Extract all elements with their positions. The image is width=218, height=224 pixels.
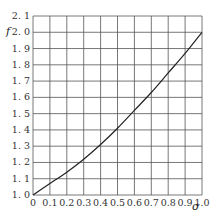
y-tick-label: 1. 2 bbox=[12, 156, 30, 167]
x-tick-label: 0.7 bbox=[144, 197, 159, 208]
y-tick-label: 1. 7 bbox=[12, 75, 30, 86]
y-tick-label: 2. 0 bbox=[12, 26, 30, 37]
y-tick-label: 1. 0 bbox=[12, 189, 30, 200]
y-tick-label: 1. 8 bbox=[12, 59, 30, 70]
y-tick-label: 1. 4 bbox=[12, 124, 30, 135]
x-tick-label: 0.4 bbox=[93, 197, 108, 208]
grid bbox=[33, 16, 202, 195]
y-axis-ticks: 1. 01. 11. 21. 31. 41. 51. 61. 71. 81. 9… bbox=[12, 10, 30, 200]
y-tick-label: 1. 6 bbox=[12, 91, 30, 102]
x-tick-label: 0.1 bbox=[42, 197, 57, 208]
y-tick-label: 1. 9 bbox=[12, 43, 30, 54]
chart: 1. 01. 11. 21. 31. 41. 51. 61. 71. 81. 9… bbox=[0, 0, 218, 224]
x-axis-label: σ bbox=[192, 200, 200, 213]
y-tick-label: 2. 1 bbox=[12, 10, 30, 21]
y-tick-label: 1. 1 bbox=[12, 173, 30, 184]
y-tick-label: 1. 3 bbox=[12, 140, 30, 151]
x-tick-label: 0 bbox=[30, 197, 36, 208]
x-tick-label: 0.5 bbox=[110, 197, 125, 208]
x-tick-label: 0.6 bbox=[127, 197, 142, 208]
x-tick-label: 0.2 bbox=[59, 197, 74, 208]
x-axis-ticks: 00.10.20.30.40.50.60.70.80.91.0 bbox=[30, 197, 210, 208]
x-tick-label: 0.9 bbox=[178, 197, 193, 208]
y-tick-label: 1. 5 bbox=[12, 108, 30, 119]
x-tick-label: 0.3 bbox=[76, 197, 91, 208]
x-tick-label: 0.8 bbox=[161, 197, 176, 208]
